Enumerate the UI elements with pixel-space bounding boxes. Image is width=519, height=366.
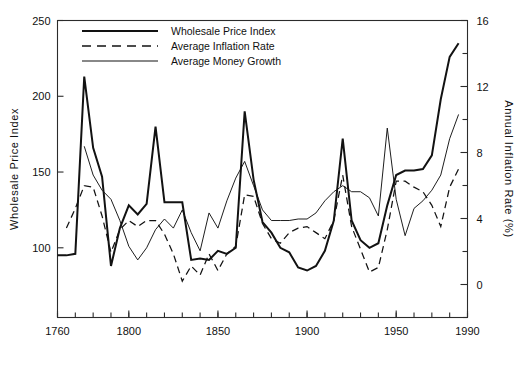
y2-tick-label: 8 bbox=[477, 147, 483, 159]
y2-tick-label: 12 bbox=[477, 81, 489, 93]
y-tick-label: 200 bbox=[32, 90, 50, 102]
y2-tick-label: 16 bbox=[477, 15, 489, 27]
y-tick-label: 250 bbox=[32, 15, 50, 27]
legend-label-average-inflation-rate: Average Inflation Rate bbox=[171, 40, 275, 52]
x-tick-label: 1850 bbox=[206, 325, 230, 337]
x-tick-label: 1990 bbox=[455, 325, 479, 337]
y2-tick-label: 4 bbox=[477, 213, 483, 225]
x-tick-label: 1950 bbox=[384, 325, 408, 337]
x-tick-label: 1760 bbox=[45, 325, 69, 337]
y-tick-label: 150 bbox=[32, 166, 50, 178]
y-axis-title: Wholesale Price Index bbox=[8, 108, 20, 230]
y2-tick-label: 0 bbox=[477, 279, 483, 291]
legend-label-average-money-growth: Average Money Growth bbox=[171, 55, 281, 67]
y-tick-label: 100 bbox=[32, 242, 50, 254]
chart-figure: 100150200250 0481216 1760180018501900195… bbox=[0, 0, 519, 366]
x-tick-label: 1900 bbox=[295, 325, 319, 337]
y2-axis-title: Annual Inflation Rate (%) bbox=[503, 100, 515, 237]
legend-label-wholesale-price-index: Wholesale Price Index bbox=[171, 25, 276, 37]
x-tick-label: 1800 bbox=[117, 325, 141, 337]
